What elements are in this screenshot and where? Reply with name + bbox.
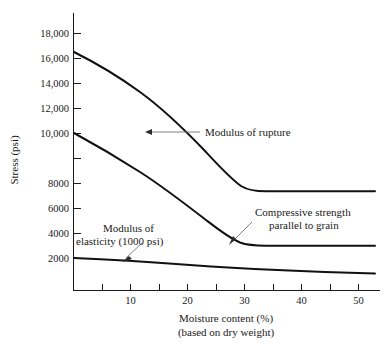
x-tick-label-50: 50	[353, 295, 364, 306]
x-axis-tick-labels: 10 20 30 40 50	[125, 295, 364, 306]
y-tick-label-8000: 8000	[48, 178, 69, 189]
x-tick-label-30: 30	[239, 295, 250, 306]
y-tick-label-14000: 14,000	[40, 78, 69, 89]
curve-modulus-of-elasticity	[74, 258, 375, 274]
y-tick-label-10000: 10,000	[40, 128, 69, 139]
y-tick-label-6000: 6000	[48, 203, 69, 214]
chart-figure: 18,000 16,000 14,000 12,000 10,000 8000 …	[0, 0, 387, 352]
curve-modulus-of-rupture	[74, 52, 375, 191]
y-tick-label-16000: 16,000	[40, 53, 69, 64]
y-tick-label-2000: 2000	[48, 253, 69, 264]
annotation-label-rupture: Modulus of rupture	[205, 126, 291, 138]
y-axis-ticks	[74, 33, 81, 258]
annotation-label-compressive-line1: Compressive strength	[255, 206, 351, 218]
x-axis-title-line1: Moisture content (%)	[179, 312, 273, 325]
y-tick-label-12000: 12,000	[40, 103, 69, 114]
y-axis-tick-labels: 18,000 16,000 14,000 12,000 10,000 8000 …	[40, 28, 69, 264]
x-tick-label-20: 20	[182, 295, 193, 306]
annotation-modulus-of-rupture: Modulus of rupture	[145, 126, 291, 138]
y-tick-label-4000: 4000	[48, 228, 69, 239]
y-axis-title: Stress (psi)	[8, 135, 21, 185]
chart-svg: 18,000 16,000 14,000 12,000 10,000 8000 …	[0, 0, 387, 352]
y-tick-label-18000: 18,000	[40, 28, 69, 39]
chart-axes	[74, 13, 381, 291]
x-axis-title-line2: (based on dry weight)	[178, 326, 275, 339]
annotation-compressive-strength: Compressive strength parallel to grain	[229, 206, 351, 245]
annotation-label-compressive-line2: parallel to grain	[269, 219, 339, 231]
annotation-modulus-of-elasticity: Modulus of elasticity (1000 psi)	[76, 222, 164, 262]
arrowhead-icon	[145, 129, 152, 135]
annotation-label-elasticity-line1: Modulus of	[103, 222, 154, 234]
x-tick-label-10: 10	[125, 295, 136, 306]
x-axis-ticks	[102, 284, 359, 291]
x-tick-label-40: 40	[296, 295, 307, 306]
annotation-label-elasticity-line2: elasticity (1000 psi)	[76, 235, 164, 248]
